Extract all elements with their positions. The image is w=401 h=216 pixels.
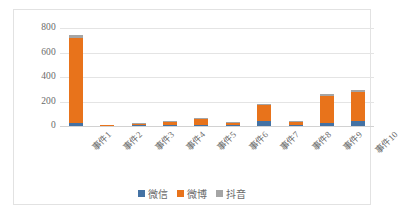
legend-label: 微信 [148,186,168,201]
x-tick-label: 事件1 [88,128,113,153]
bar-group[interactable] [100,125,114,126]
legend-item-douyin[interactable]: 抖音 [216,186,246,201]
gridline [60,77,374,78]
bar-segment-weibo[interactable] [69,38,83,123]
chart-legend: 微信微博抖音 [14,186,370,201]
y-tick-label: 200 [22,96,56,106]
bar-segment-wechat[interactable] [320,123,334,126]
x-axis-labels: 事件1事件2事件3事件4事件5事件6事件7事件8事件9事件10 [60,128,374,174]
x-tick-label: 事件4 [182,128,207,153]
bar-group[interactable] [132,123,146,126]
axis-baseline [60,126,374,127]
bar-segment-wechat[interactable] [194,125,208,126]
bar-group[interactable] [351,90,365,126]
x-tick-label: 事件8 [308,128,333,153]
bar-segment-wechat[interactable] [163,125,177,126]
legend-item-weibo[interactable]: 微博 [177,186,207,201]
y-tick-label: 0 [22,120,56,130]
y-axis: 8006004002000 [18,28,56,126]
bar-group[interactable] [257,104,271,126]
gridline [60,28,374,29]
bar-group[interactable] [194,118,208,126]
y-tick-label: 600 [22,47,56,57]
x-tick-label: 事件9 [339,128,364,153]
bar-segment-weibo[interactable] [257,105,271,121]
y-tick-label: 400 [22,71,56,81]
x-tick-label: 事件2 [120,128,145,153]
legend-swatch-icon [177,190,184,197]
legend-swatch-icon [216,190,223,197]
bar-group[interactable] [226,122,240,126]
bar-segment-wechat[interactable] [132,125,146,126]
chart-frame: 8006004002000 事件1事件2事件3事件4事件5事件6事件7事件8事件… [13,9,371,205]
bar-segment-wechat[interactable] [226,125,240,126]
legend-item-wechat[interactable]: 微信 [138,186,168,201]
bar-segment-wechat[interactable] [289,125,303,126]
legend-label: 抖音 [226,186,246,201]
bar-segment-weibo[interactable] [320,96,334,123]
bar-segment-wechat[interactable] [257,121,271,126]
x-tick-label: 事件5 [214,128,239,153]
bar-group[interactable] [163,121,177,126]
bar-group[interactable] [289,121,303,126]
x-tick-label: 事件3 [151,128,176,153]
legend-swatch-icon [138,190,145,197]
x-tick-label: 事件6 [245,128,270,153]
x-tick-label: 事件7 [277,128,302,153]
gridline [60,53,374,54]
plot-area [60,28,374,126]
bar-segment-weibo[interactable] [100,125,114,126]
bar-segment-weibo[interactable] [351,92,365,121]
x-tick-label: 事件10 [372,128,400,156]
y-tick-label: 800 [22,22,56,32]
bar-group[interactable] [69,35,83,126]
legend-label: 微博 [187,186,207,201]
bar-group[interactable] [320,94,334,126]
bar-segment-wechat[interactable] [69,123,83,126]
bar-segment-wechat[interactable] [351,121,365,126]
